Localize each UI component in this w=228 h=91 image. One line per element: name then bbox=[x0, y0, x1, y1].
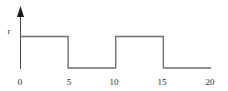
xtick-label-10: 10 bbox=[110, 77, 120, 87]
xtick-label-0: 0 bbox=[18, 77, 23, 87]
xtick-label-5: 5 bbox=[67, 77, 72, 87]
y-axis-label: r bbox=[8, 26, 11, 36]
waveform-trace bbox=[21, 37, 212, 69]
square-wave-plot: r 0 5 10 15 20 bbox=[0, 0, 228, 91]
chart-screenshot: r 0 5 10 15 20 bbox=[0, 0, 228, 91]
xtick-label-15: 15 bbox=[158, 77, 168, 87]
arrow-up-icon bbox=[17, 6, 24, 17]
xtick-label-20: 20 bbox=[206, 77, 216, 87]
